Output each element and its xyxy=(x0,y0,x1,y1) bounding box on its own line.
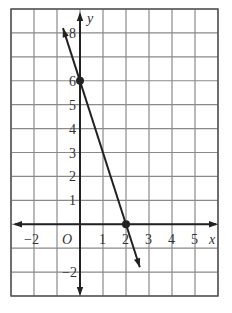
x-tick-label: −2 xyxy=(24,232,39,247)
axes xyxy=(13,12,218,296)
x-tick-label: 5 xyxy=(191,232,198,247)
y-tick-label: 2 xyxy=(69,169,76,184)
x-axis-label: x xyxy=(208,232,216,247)
line-arrow-end-icon xyxy=(134,258,140,268)
y-axis-label: y xyxy=(85,11,94,26)
x-tick-label: 3 xyxy=(145,232,152,247)
y-tick-label: 4 xyxy=(69,122,76,137)
y-tick-label: 5 xyxy=(69,98,76,113)
y-tick-label: 8 xyxy=(69,26,76,41)
y-axis-arrow-up-icon xyxy=(77,12,83,21)
y-tick-label: 3 xyxy=(69,146,76,161)
x-tick-label: 1 xyxy=(99,232,106,247)
intercept-point xyxy=(122,220,130,228)
y-axis-arrow-down-icon xyxy=(77,287,83,296)
x-tick-label: 4 xyxy=(168,232,175,247)
x-axis-arrow-right-icon xyxy=(209,221,218,227)
coordinate-plane: −212345−21234568 x y O xyxy=(0,0,232,313)
y-tick-label: 6 xyxy=(69,74,76,89)
y-tick-label: 1 xyxy=(69,193,76,208)
intercept-point xyxy=(76,77,84,85)
y-tick-label: −2 xyxy=(62,265,77,280)
x-axis-arrow-left-icon xyxy=(13,221,22,227)
grid-lines xyxy=(11,9,218,296)
x-tick-label: 2 xyxy=(122,232,129,247)
origin-label: O xyxy=(62,232,72,247)
